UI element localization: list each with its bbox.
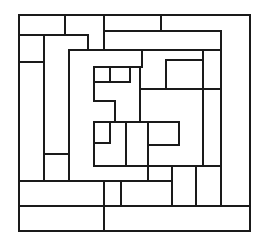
maze-diagram — [0, 0, 266, 244]
